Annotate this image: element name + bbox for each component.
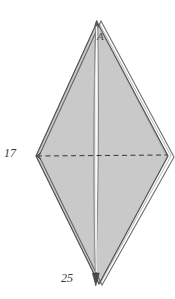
left-dimension-label: 17: [4, 147, 16, 159]
bottom-dimension-label: 25: [61, 272, 73, 284]
apex-vertex-label: A: [97, 31, 104, 42]
rhombic-bipyramid-figure: [0, 0, 175, 299]
rhombus-front-face: [36, 22, 168, 284]
